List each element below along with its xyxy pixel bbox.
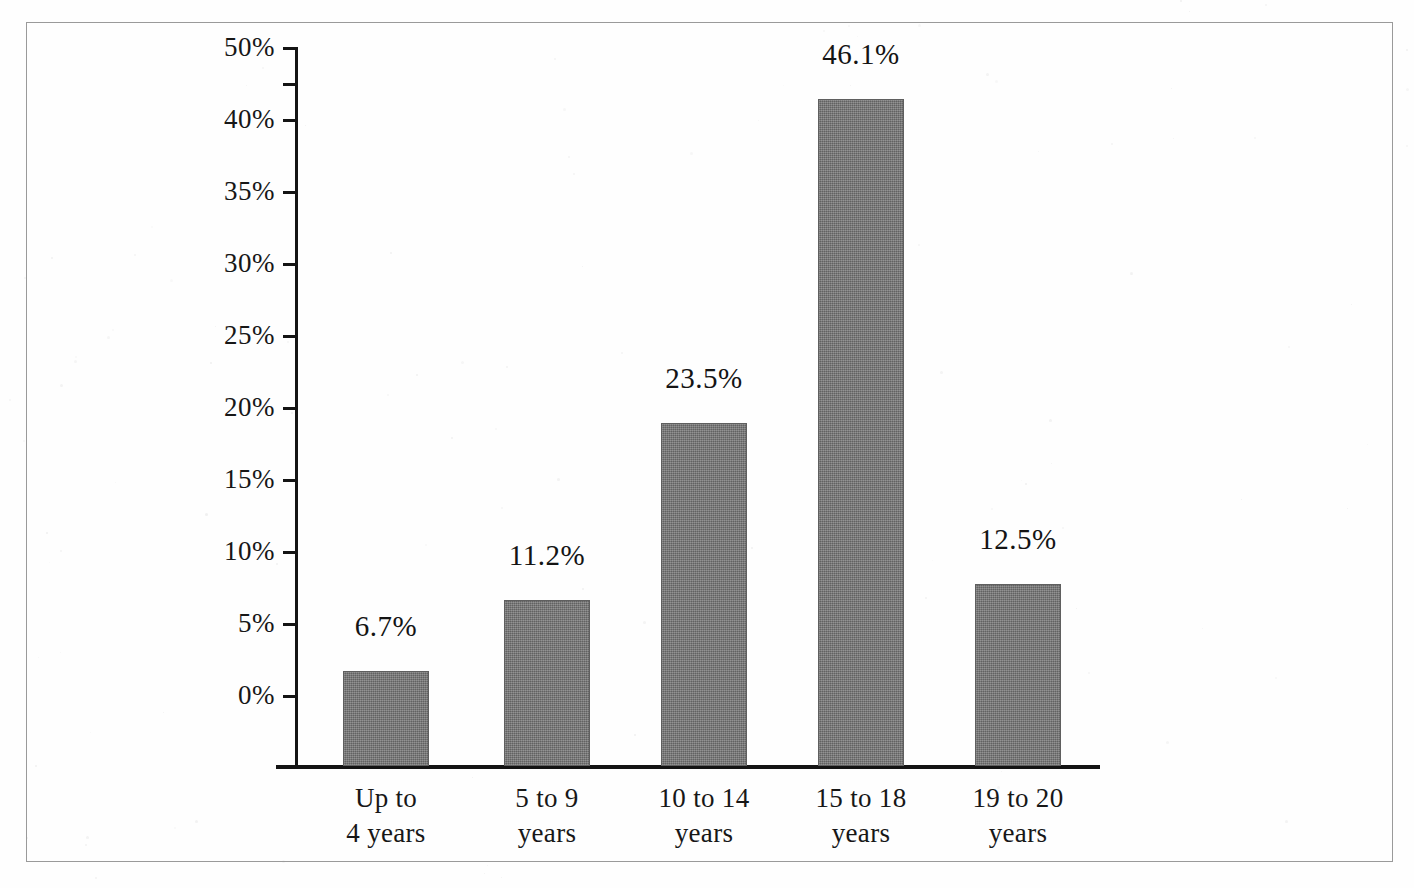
x-axis-category-label: Up to 4 years [313,781,459,851]
bar [818,99,904,766]
y-axis-tick [283,407,298,410]
y-axis-tick-label: 0% [238,682,275,709]
y-axis-tick-label: 20% [224,394,275,421]
bar-value-label: 12.5% [938,525,1098,554]
y-axis-tick [283,551,298,554]
y-axis-tick-label: 35% [224,178,275,205]
bar-value-label: 23.5% [624,364,784,393]
y-axis-tick-label: 30% [224,250,275,277]
bar [975,584,1061,766]
y-axis-tick [283,263,298,266]
y-axis-tick-label: 50% [224,34,275,61]
bar-value-label: 11.2% [467,541,627,570]
y-axis-tick-label: 10% [224,538,275,565]
x-axis-category-label: 5 to 9 years [474,781,620,851]
y-axis-tick [283,119,298,122]
bar-value-label: 46.1% [781,40,941,69]
x-axis-category-label: 10 to 14 years [631,781,777,851]
y-axis-tick-label: 25% [224,322,275,349]
y-axis-tick [283,83,298,86]
y-axis-tick [283,479,298,482]
x-axis-category-label: 19 to 20 years [945,781,1091,851]
bar [661,423,747,766]
y-axis-tick [283,47,298,50]
y-axis-tick [283,623,298,626]
y-axis-tick [283,695,298,698]
y-axis-tick-label: 40% [224,106,275,133]
x-axis-category-label: 15 to 18 years [788,781,934,851]
y-axis-tick [283,335,298,338]
bar-chart: 50%40%35%30%25%20%15%10%5%0% 6.7%11.2%23… [0,0,1414,888]
bar [343,671,429,766]
bar-value-label: 6.7% [306,612,466,641]
y-axis-tick-label: 15% [224,466,275,493]
y-axis-tick [283,191,298,194]
bar [504,600,590,766]
y-axis-tick-label: 5% [238,610,275,637]
